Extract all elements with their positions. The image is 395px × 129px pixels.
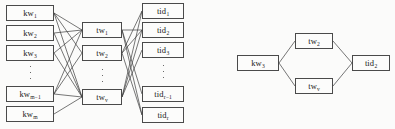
node-rtw2: tw2 <box>295 33 333 49</box>
node-label: kw3 <box>23 49 37 58</box>
node-tid2: tid2 <box>142 22 184 38</box>
node-label: twv <box>96 93 108 102</box>
node-subscript: r <box>167 115 169 121</box>
node-rtid2: tid2 <box>352 55 390 71</box>
node-subscript: 2 <box>34 33 37 39</box>
node-kw1: kw1 <box>6 5 54 21</box>
node-rkw3: kw3 <box>237 55 279 71</box>
node-label: tid3 <box>157 46 169 55</box>
node-subscript: m−1 <box>30 94 41 100</box>
node-tidr1: tidr−1 <box>142 86 184 102</box>
node-subscript: 3 <box>262 63 265 69</box>
node-subscript: 1 <box>166 11 169 17</box>
node-subscript: 2 <box>317 41 320 47</box>
node-label: tid1 <box>157 7 169 16</box>
edge-twv-to-tid3 <box>122 50 142 97</box>
node-label: kw1 <box>23 9 37 18</box>
node-kwm1: kwm−1 <box>6 86 54 102</box>
node-subscript: 2 <box>105 53 108 59</box>
node-tid3: tid3 <box>142 42 184 58</box>
node-label: tid2 <box>365 59 377 68</box>
edge-rtwv-to-rtid2 <box>333 63 352 86</box>
node-tidr: tidr <box>142 107 184 123</box>
edge-tw2-to-tid1 <box>122 11 142 53</box>
edge-rkw3-to-rtw2 <box>279 41 295 63</box>
vertical-ellipsis-icon <box>101 69 104 82</box>
node-subscript: v <box>317 86 320 92</box>
node-label: twv <box>308 82 320 91</box>
edge-kw1-to-tw1 <box>54 13 82 30</box>
node-rtwv: twv <box>295 78 333 94</box>
node-kw2: kw2 <box>6 25 54 41</box>
node-subscript: r−1 <box>164 94 172 100</box>
node-subscript: 1 <box>105 30 108 36</box>
node-subscript: 1 <box>34 13 37 19</box>
node-label: tidr <box>157 111 168 120</box>
edge-kwm-to-twv <box>54 97 82 114</box>
node-label: tw1 <box>96 26 108 35</box>
node-subscript: v <box>105 97 108 103</box>
node-subscript: 3 <box>166 50 169 56</box>
edge-rkw3-to-rtwv <box>279 63 295 86</box>
node-kw3: kw3 <box>6 45 54 61</box>
node-label: tw2 <box>96 49 108 58</box>
node-label: kwm <box>22 110 37 119</box>
node-subscript: m <box>33 114 37 120</box>
node-label: tw2 <box>308 37 320 46</box>
node-label: kw3 <box>251 59 265 68</box>
node-label: kwm−1 <box>19 90 40 99</box>
node-subscript: 2 <box>166 30 169 36</box>
edge-tw1-to-tidr <box>122 30 142 115</box>
node-label: tid2 <box>157 26 169 35</box>
node-subscript: 3 <box>34 53 37 59</box>
node-tw2: tw2 <box>82 45 122 61</box>
node-tid1: tid1 <box>142 3 184 19</box>
edge-layer <box>0 0 395 129</box>
node-kwm: kwm <box>6 106 54 122</box>
vertical-ellipsis-icon <box>29 66 32 79</box>
edge-kwm1-to-twv <box>54 94 82 97</box>
node-subscript: 2 <box>374 63 377 69</box>
node-label: tidr−1 <box>154 90 171 99</box>
node-tw1: tw1 <box>82 22 122 38</box>
edge-rtw2-to-rtid2 <box>333 41 352 63</box>
node-twv: twv <box>82 89 122 105</box>
node-label: kw2 <box>23 29 37 38</box>
vertical-ellipsis-icon <box>162 65 165 78</box>
figure-canvas: kw1kw2kw3kwm−1kwmtw1tw2twvtid1tid2tid3ti… <box>0 0 395 129</box>
